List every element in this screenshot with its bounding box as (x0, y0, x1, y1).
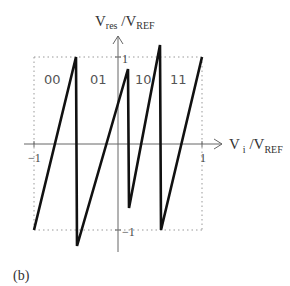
segment-label-01: 01 (90, 72, 107, 87)
y-tick-min: −1 (122, 225, 135, 239)
x-tick-min: −1 (28, 151, 41, 165)
segment-label-00: 00 (44, 72, 61, 87)
segment-label-10: 10 (135, 72, 152, 87)
y-tick-max: 1 (122, 52, 128, 66)
y-axis-label: Vres /VREF (95, 13, 155, 31)
figure-caption: (b) (13, 268, 30, 284)
residue-plot: 00 01 10 11 −1 1 1 −1 Vres /VREF Vi /VRE… (0, 0, 290, 286)
x-tick-max: 1 (200, 151, 206, 165)
segment-label-11: 11 (170, 72, 187, 87)
x-axis-label: Vi /VREF (229, 136, 283, 155)
